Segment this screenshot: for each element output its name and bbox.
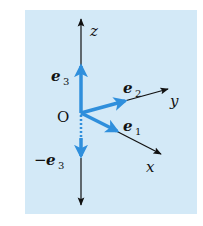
label-e3: e 3 [51, 67, 69, 87]
label-neg-e3: − e 3 [34, 151, 64, 171]
svg-text:3: 3 [58, 160, 64, 171]
svg-text:e: e [46, 151, 56, 169]
vector-e1 [81, 113, 117, 131]
svg-text:e: e [123, 79, 133, 97]
label-e1: e 1 [123, 117, 141, 137]
svg-text:−: − [34, 151, 47, 169]
svg-text:e: e [51, 67, 61, 85]
vector-e2 [81, 101, 125, 113]
label-e2: e 2 [123, 79, 141, 99]
svg-text:1: 1 [135, 126, 141, 137]
svg-text:e: e [123, 117, 133, 135]
y-axis-label: y [169, 92, 179, 110]
origin-label: O [57, 108, 69, 126]
coordinate-diagram: z y x O e 3 e 2 e 1 − e 3 [0, 0, 203, 226]
x-axis-label: x [146, 158, 155, 176]
svg-text:3: 3 [63, 76, 69, 87]
z-axis-label: z [89, 22, 98, 40]
svg-text:2: 2 [135, 88, 141, 99]
